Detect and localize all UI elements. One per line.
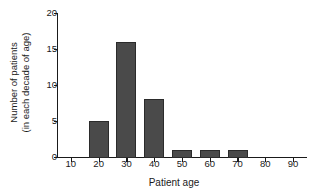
y-axis-title-line-1: Number of patients [9,33,21,133]
x-tick-labels: 102030405060708090 [40,158,308,174]
x-axis-title: Patient age [40,177,308,189]
bar [89,121,109,158]
bar [144,99,164,158]
bar [116,42,136,158]
plot-area: 20151050 [40,8,308,173]
x-tick-label: 80 [254,158,276,170]
bar [228,150,248,158]
y-axis-title-line-2: (in each decade of age) [20,33,32,133]
bar [172,150,192,158]
x-tick-label: 20 [88,158,110,170]
x-tick-label: 30 [115,158,137,170]
bar-chart-figure: Number of patients (in each decade of ag… [0,0,315,196]
x-tick-label: 10 [60,158,82,170]
x-tick-label: 40 [143,158,165,170]
bars-layer [40,8,308,173]
bar [200,150,220,158]
x-tick-label: 90 [282,158,304,170]
y-axis-title: Number of patients (in each decade of ag… [0,0,40,165]
x-tick-label: 50 [171,158,193,170]
x-tick-label: 60 [199,158,221,170]
x-tick-label: 70 [227,158,249,170]
